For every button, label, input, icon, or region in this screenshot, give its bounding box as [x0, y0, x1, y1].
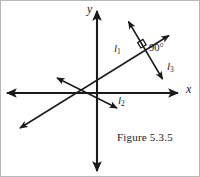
- geometry-diagram: [1, 1, 200, 177]
- line-l2-label: l2: [118, 95, 125, 106]
- line-l3-label-subscript: 3: [170, 65, 174, 74]
- line-l1-label-subscript: 1: [117, 47, 121, 56]
- figure-container: y x l1 l2 l3 90° Figure 5.3.5: [0, 0, 200, 177]
- figure-caption: Figure 5.3.5: [117, 132, 173, 143]
- x-axis-label: x: [186, 83, 191, 95]
- line-l3-label: l3: [167, 61, 174, 72]
- line-l1-label: l1: [114, 43, 121, 54]
- line-l1: [20, 36, 169, 129]
- right-angle-label: 90°: [149, 43, 164, 54]
- y-axis-label: y: [87, 3, 92, 15]
- line-l2-label-subscript: 2: [121, 99, 125, 108]
